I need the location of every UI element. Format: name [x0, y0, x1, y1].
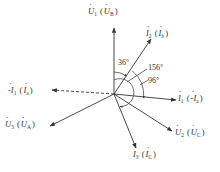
label-U2: U2 (UC) [175, 128, 206, 139]
phasor-vectors [50, 28, 176, 148]
angle-arcs [114, 69, 148, 107]
label-I2: I2 (Ib) [146, 29, 169, 40]
angle-label-0: 36° [118, 59, 129, 67]
label-I1: I1 (-Ia) [178, 94, 204, 105]
label-negI1: -I1 (Ia) [8, 86, 34, 97]
label-U1: U1 (UB) [88, 7, 119, 18]
vector-U3 [50, 94, 114, 126]
vector-negI1 [52, 90, 114, 94]
vector-U2 [114, 94, 172, 131]
arc-36 [114, 72, 127, 76]
angle-label-2: 96° [148, 77, 159, 85]
label-U3: U3 (UA) [5, 120, 36, 131]
angle-label-1: 156° [148, 64, 163, 72]
vector-I1 [114, 94, 176, 100]
vector-I3 [114, 94, 136, 148]
label-I3: I3 (IC) [133, 150, 157, 161]
